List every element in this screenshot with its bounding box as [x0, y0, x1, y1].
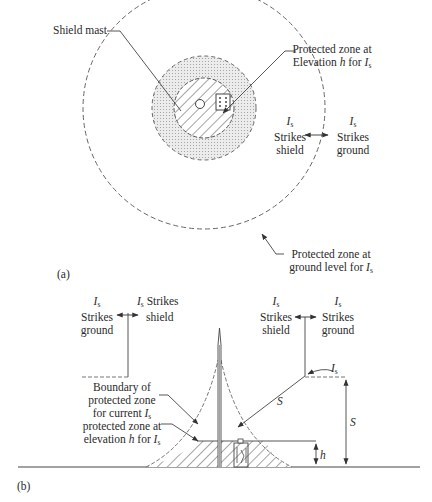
boundary-label-leader: [159, 395, 198, 424]
label-line: Protected zone at: [290, 43, 374, 56]
shield-mast-circle: [196, 100, 205, 109]
strikes-shield-label: Is Strikes shield: [270, 115, 310, 157]
label-line: Elevation h for Is: [290, 56, 374, 72]
height-s-label: S: [350, 416, 356, 429]
ground-zone-label: Protected zone at ground level for Is: [286, 248, 376, 277]
right-strikes-ground-label: Is Strikes ground: [316, 295, 360, 337]
current-arrow: [308, 370, 333, 374]
striking-distance-radius: [238, 376, 305, 427]
left-strikes-ground-label: Is Strikes ground: [78, 295, 116, 337]
left-strikes-shield-label: Is Strikes shield: [137, 295, 179, 324]
current-label: Is: [331, 362, 338, 378]
radius-s-label: S: [277, 395, 283, 408]
elevation-h-label: h: [320, 449, 326, 462]
elevation-zone-label: Protected zone at Elevation h for Is: [290, 43, 374, 72]
shield-mast-label: Shield mast: [53, 24, 107, 37]
panel-b-tag: (b): [17, 480, 30, 493]
ground-zone-leader: [262, 234, 284, 254]
elevation-zone-label-leader: [161, 424, 198, 441]
elevation-zone-b-label: protected zone at elevation h for Is: [80, 420, 164, 449]
boundary-label: Boundary of protected zone for current I…: [82, 381, 162, 423]
strikes-ground-label: Is Strikes ground: [331, 115, 375, 157]
panel-a-tag: (a): [57, 268, 70, 281]
right-strikes-shield-label: Is Strikes shield: [256, 295, 296, 337]
